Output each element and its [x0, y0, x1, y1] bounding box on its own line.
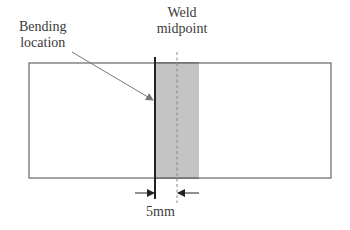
bending-label-line2: location — [19, 35, 66, 51]
bending-label-line1: Bending — [19, 19, 66, 35]
weld-label-line2: midpoint — [150, 21, 214, 37]
bending-location-label: Bending location — [19, 19, 66, 51]
weld-midpoint-label: Weld midpoint — [150, 5, 214, 37]
dimension-label: 5mm — [146, 204, 175, 220]
weld-label-line1: Weld — [150, 5, 214, 21]
